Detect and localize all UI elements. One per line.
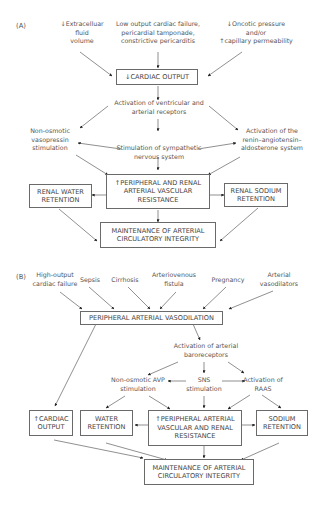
raas-activation-b: Activation of RAAS [238,376,288,393]
box-maintenance-b: MAINTENANCE OF ARTERIAL CIRCULATORY INTE… [144,459,254,485]
vasopressin-stimulation: Non-osmotic vasopressin stimulation [22,127,78,153]
text-line: VASCULAR AND RENAL [157,424,233,433]
text-line: RETENTION [88,423,126,432]
sympathetic-stimulation: Stimulation of sympathetic nervous syste… [114,144,204,161]
activation-receptors: Activation of ventricular and arterial r… [106,99,212,116]
box-maintenance-a: MAINTENANCE OF ARTERIAL CIRCULATORY INTE… [100,222,216,248]
cause-extracellular-fluid: ↓Extracelluar fluid volume [52,20,112,46]
text-line: RETENTION [263,423,301,432]
avp-stimulation: Non-osmotic AVP stimulation [108,376,168,393]
text-line: RESISTANCE [175,432,216,441]
text-line: stimulation [22,144,78,153]
text-line: vasopressin [22,136,78,145]
text-line: fluid [52,29,112,38]
text-line: MAINTENANCE OF ARTERIAL [111,227,204,236]
cause-low-output: Low output cardiac failure, pericardial … [108,20,208,46]
text-line: RAAS [238,385,288,394]
text-line: aldosterone system [236,144,308,153]
cause-sepsis: Sepsis [76,276,104,285]
text-line: fistula [148,280,200,289]
text-line: ↓Extracelluar [52,20,112,29]
box-peripheral-renal-resistance: ↑PERIPHERAL AND RENAL ARTERIAL VASCULAR … [106,174,210,209]
text-line: renin–angiotensin– [236,136,308,145]
text-line: RESISTANCE [138,196,179,205]
text-line: OUTPUT [38,423,65,432]
box-sodium-retention: SODIUM RETENTION [256,410,308,436]
box-cardiac-output-decreased: ↓CARDIAC OUTPUT [116,69,198,85]
text-line: Non-osmotic AVP [108,376,168,385]
text-line: vasodilators [256,280,302,289]
text-line: ↑CARDIAC [33,415,68,424]
text-line: Activation of [238,376,288,385]
text-line: MAINTENANCE OF ARTERIAL [152,464,245,473]
text-line: Stimulation of sympathetic [114,144,204,153]
text-line: ↑PERIPHERAL AND RENAL [115,179,201,188]
text-line: nervous system [114,153,204,162]
text-line: High-output [32,271,78,280]
text-line: SODIUM [269,415,296,424]
cause-oncotic-pressure: ↓Oncotic pressure and/or ↑capillary perm… [212,20,300,46]
text-line: CIRCULATORY INTEGRITY [117,235,199,244]
text-line: ARTERIAL VASCULAR [124,187,193,196]
cause-high-output: High-output cardiac failure [32,271,78,288]
text-line: ↑capillary permeability [212,37,300,46]
text-line: RENAL SODIUM [231,187,282,196]
sns-stimulation: SNS stimulation [184,376,224,393]
panel-a-label: (A) [16,22,26,30]
text-line: RETENTION [42,196,80,205]
text-line: Arteriovenous [148,271,200,280]
text-line: CIRCULATORY INTEGRITY [158,472,240,481]
text-line: RETENTION [237,195,275,204]
box-water-retention: WATER RETENTION [80,410,133,436]
box-peripheral-vascular-renal-resistance: ↑PERIPHERAL ARTERIAL VASCULAR AND RENAL … [148,410,242,446]
box-renal-sodium-retention: RENAL SODIUM RETENTION [224,183,288,207]
text-line: pericardial tamponade, [108,29,208,38]
text-line: baroreceptors [166,351,246,360]
text-line: Sepsis [76,276,104,285]
text-line: and/or [212,29,300,38]
text-line: Low output cardiac failure, [108,20,208,29]
text-line: WATER [95,415,118,424]
box-renal-water-retention: RENAL WATER RETENTION [29,184,92,208]
box-cardiac-output-increased: ↑CARDIAC OUTPUT [29,410,73,436]
text-line: Cirrhosis [106,276,144,285]
text-line: constrictive pericarditis [108,37,208,46]
cause-cirrhosis: Cirrhosis [106,276,144,285]
text-line: ↓Oncotic pressure [212,20,300,29]
text-line: Arterial [256,271,302,280]
cause-arterial-vasodilators: Arterial vasodilators [256,271,302,288]
text-line: cardiac failure [32,280,78,289]
cause-pregnancy: Pregnancy [208,276,248,285]
text-line: ↓CARDIAC OUTPUT [125,73,189,82]
text-line: ↑PERIPHERAL ARTERIAL [155,415,234,424]
box-peripheral-vasodilation: PERIPHERAL ARTERIAL VASODILATION [80,311,223,325]
baroreceptor-activation: Activation of arterial baroreceptors [166,342,246,359]
text-line: volume [52,37,112,46]
raas-activation: Activation of the renin–angiotensin– ald… [236,127,308,153]
text-line: Activation of arterial [166,342,246,351]
text-line: Non-osmotic [22,127,78,136]
text-line: Activation of ventricular and [106,99,212,108]
panel-b-label: (B) [16,273,26,281]
text-line: Pregnancy [208,276,248,285]
text-line: arterial receptors [106,108,212,117]
text-line: SNS [184,376,224,385]
text-line: stimulation [184,385,224,394]
text-line: Activation of the [236,127,308,136]
text-line: RENAL WATER [37,188,84,197]
text-line: PERIPHERAL ARTERIAL VASODILATION [89,314,214,323]
cause-av-fistula: Arteriovenous fistula [148,271,200,288]
text-line: stimulation [108,385,168,394]
